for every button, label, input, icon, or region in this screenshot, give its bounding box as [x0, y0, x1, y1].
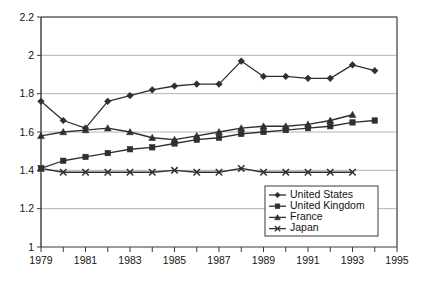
- marker-square: [372, 118, 377, 123]
- marker-diamond: [171, 83, 178, 90]
- y-axis-labels: 11.21.41.61.822.2: [19, 11, 34, 253]
- x-axis-tick-label: 1987: [207, 254, 231, 266]
- x-axis-tick-label: 1979: [29, 254, 53, 266]
- marker-square: [328, 124, 333, 129]
- marker-square: [150, 145, 155, 150]
- marker-square: [275, 204, 280, 209]
- marker-square: [350, 120, 355, 125]
- marker-square: [239, 131, 244, 136]
- series-france: [38, 111, 356, 142]
- marker-triangle: [349, 111, 356, 117]
- x-axis-tick-label: 1991: [296, 254, 320, 266]
- marker-diamond: [305, 75, 312, 82]
- x-axis-tick-label: 1981: [74, 254, 98, 266]
- marker-square: [61, 158, 66, 163]
- y-axis-tick-label: 1.6: [19, 126, 34, 138]
- marker-square: [216, 135, 221, 140]
- x-axis-tick-label: 1985: [163, 254, 187, 266]
- line-chart: 11.21.41.61.822.2 1979198119831985198719…: [0, 0, 427, 283]
- marker-diamond: [349, 62, 356, 69]
- gridlines: [41, 17, 397, 209]
- marker-square: [127, 147, 132, 152]
- y-axis-tick-label: 1.2: [19, 202, 34, 214]
- series-line: [41, 61, 375, 128]
- y-axis-tick-label: 1.4: [19, 164, 34, 176]
- legend-item-label: United Kingdom: [290, 199, 365, 211]
- x-axis-tick-label: 1989: [252, 254, 276, 266]
- marker-diamond: [149, 87, 156, 94]
- x-axis-tick-label: 1995: [385, 254, 409, 266]
- marker-diamond: [327, 75, 334, 82]
- x-axis-tick-label: 1993: [341, 254, 365, 266]
- marker-diamond: [371, 67, 378, 74]
- y-axis-tick-label: 2.2: [19, 11, 34, 23]
- legend-item-label: France: [290, 210, 323, 222]
- series-line: [41, 121, 375, 169]
- chart-canvas: 11.21.41.61.822.2 1979198119831985198719…: [0, 0, 427, 283]
- x-axis-labels: 197919811983198519871989199119931995: [29, 254, 409, 266]
- marker-square: [83, 154, 88, 159]
- chart-legend: United StatesUnited KingdomFranceJapan: [265, 186, 378, 236]
- legend-item-label: Japan: [290, 221, 319, 233]
- y-axis-tick-label: 2: [28, 49, 34, 61]
- legend-item-label: United States: [290, 188, 353, 200]
- marker-square: [105, 150, 110, 155]
- marker-diamond: [193, 81, 200, 88]
- series-united-kingdom: [38, 118, 377, 171]
- y-axis-tick-label: 1.8: [19, 87, 34, 99]
- marker-diamond: [282, 73, 289, 80]
- data-series-layer: [38, 58, 378, 176]
- y-axis-tick-label: 1: [28, 241, 34, 253]
- marker-square: [261, 129, 266, 134]
- x-axis-tick-label: 1983: [118, 254, 142, 266]
